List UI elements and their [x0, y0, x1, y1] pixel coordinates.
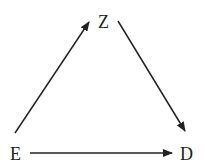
edge-e-to-z — [15, 22, 89, 133]
node-e: E — [10, 144, 21, 162]
node-d: D — [180, 144, 193, 162]
node-z: Z — [98, 12, 109, 32]
causal-diagram: Z E D — [0, 0, 205, 162]
edge-z-to-d — [118, 21, 185, 131]
